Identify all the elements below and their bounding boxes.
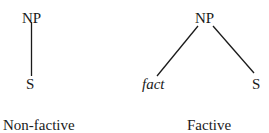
factive-caption: Factive bbox=[187, 118, 231, 133]
nonfactive-s-node: S bbox=[26, 77, 34, 92]
edge-factive-np-s bbox=[213, 26, 254, 73]
factive-s-node: S bbox=[252, 77, 260, 92]
factive-fact-node: fact bbox=[142, 77, 165, 92]
factive-np-node: NP bbox=[195, 11, 214, 26]
nonfactive-caption: Non-factive bbox=[3, 118, 75, 133]
edge-factive-np-fact bbox=[157, 26, 198, 76]
nonfactive-np-node: NP bbox=[22, 11, 41, 26]
